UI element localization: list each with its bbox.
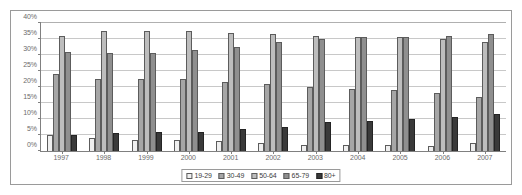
bar [113, 133, 119, 151]
x-axis-tick-label: 2004 [337, 154, 379, 161]
bar-group [428, 23, 458, 151]
legend-item[interactable]: 30-49 [219, 172, 244, 179]
x-axis-tick-label: 1999 [125, 154, 167, 161]
x-axis-labels: 1997199819992000200120022003200420052006… [40, 154, 506, 166]
y-axis-tick-label: 25% [23, 61, 37, 68]
y-axis-tick-label: 15% [23, 93, 37, 100]
x-axis-tick-label: 2003 [294, 154, 336, 161]
legend-item[interactable]: 50-64 [251, 172, 276, 179]
bar [282, 127, 288, 151]
legend-item-label: 50-64 [259, 172, 276, 179]
bar-group [174, 23, 204, 151]
y-axis-tick-label: 0% [27, 141, 37, 148]
legend-item-label: 65-79 [292, 172, 309, 179]
x-axis-tick-label: 2007 [464, 154, 506, 161]
x-axis-tick-label: 2000 [167, 154, 209, 161]
bar [367, 121, 373, 151]
bar-group [89, 23, 119, 151]
bar-group [385, 23, 415, 151]
bar-group [470, 23, 500, 151]
y-axis-tick-label: 20% [23, 77, 37, 84]
bar [325, 122, 331, 151]
x-axis-tick-label: 2005 [379, 154, 421, 161]
bar-group [343, 23, 373, 151]
bar-group [132, 23, 162, 151]
bar-groups [41, 23, 506, 151]
x-axis-tick-label: 2006 [421, 154, 463, 161]
y-axis-tick-label: 40% [23, 13, 37, 20]
legend-swatch-icon [316, 173, 322, 179]
legend-swatch-icon [219, 173, 225, 179]
bar [198, 132, 204, 151]
legend-item-label: 19-29 [194, 172, 211, 179]
x-axis-tick-label: 2002 [252, 154, 294, 161]
bar-chart: 0%5%10%15%20%25%30%35%40% 19971998199920… [0, 0, 522, 195]
legend-item[interactable]: 19-29 [186, 172, 211, 179]
legend-item-label: 30-49 [227, 172, 244, 179]
legend-swatch-icon [284, 173, 290, 179]
legend-item[interactable]: 80+ [316, 172, 336, 179]
bar [156, 132, 162, 151]
bar-group [301, 23, 331, 151]
y-axis-tick-label: 35% [23, 29, 37, 36]
x-axis-tick-label: 2001 [209, 154, 251, 161]
bar [71, 135, 77, 151]
chart-legend: 19-2930-4950-6465-7980+ [181, 169, 340, 182]
bar [452, 117, 458, 151]
bar [409, 119, 415, 151]
plot-area: 0%5%10%15%20%25%30%35%40% [40, 23, 506, 152]
y-axis-tick-label: 30% [23, 45, 37, 52]
x-axis-tick-label: 1997 [40, 154, 82, 161]
bar-group [47, 23, 77, 151]
bar [494, 114, 500, 151]
bar-group [216, 23, 246, 151]
bar [240, 129, 246, 151]
legend-swatch-icon [186, 173, 192, 179]
x-axis-tick-label: 1998 [82, 154, 124, 161]
bar-group [258, 23, 288, 151]
legend-swatch-icon [251, 173, 257, 179]
legend-item[interactable]: 65-79 [284, 172, 309, 179]
y-axis-tick-label: 5% [27, 125, 37, 132]
y-axis-tick-label: 10% [23, 109, 37, 116]
legend-item-label: 80+ [324, 172, 336, 179]
